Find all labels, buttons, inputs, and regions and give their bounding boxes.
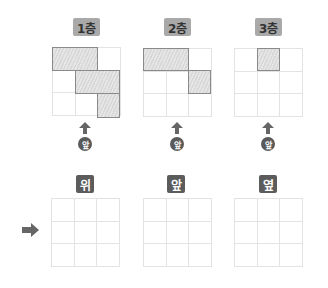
up-arrow-icon [171,122,183,134]
shaded-block [75,70,120,94]
front-marker: 앞 [261,137,275,151]
floor-label-1: 1층 [73,18,100,36]
shaded-block [143,48,189,71]
front-marker: 앞 [78,137,92,151]
shaded-block [188,70,211,94]
answer-grid-side[interactable] [234,198,303,267]
up-arrow-icon [79,122,91,134]
floor-label-3: 3층 [255,18,282,36]
answer-grid-front[interactable] [143,198,212,267]
view-label-side: 옆 [259,175,277,193]
answer-grid-top[interactable] [51,198,120,267]
view-label-front: 앞 [167,175,185,193]
floor-label-2: 2층 [164,18,191,36]
view-label-top: 위 [76,175,94,193]
front-marker: 앞 [170,137,184,151]
shaded-block [52,47,98,71]
right-arrow-icon [22,223,39,237]
shaded-block [97,93,120,118]
up-arrow-icon [262,122,274,134]
shaded-block [257,48,280,71]
